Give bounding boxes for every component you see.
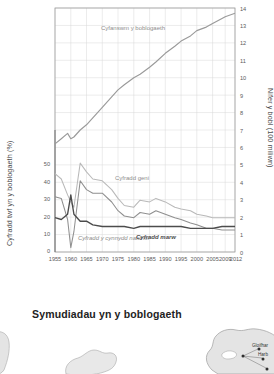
left-axis-ticks: 50 40 30 20 10 0 -10 bbox=[44, 161, 50, 254]
svg-text:14: 14 bbox=[240, 6, 246, 12]
svg-text:13: 13 bbox=[240, 23, 246, 29]
right-axis-title: Nifer y bobl (100 miliwn) bbox=[266, 88, 274, 168]
population-chart-figure: Cyfradd twf yn y boblogaeth (%) Nifer y … bbox=[0, 0, 274, 278]
svg-text:10: 10 bbox=[240, 75, 246, 81]
svg-text:1980: 1980 bbox=[128, 256, 140, 262]
series-label-total-population: Cyfanswm y boblogaeth bbox=[101, 25, 165, 31]
map-shape-left bbox=[0, 331, 9, 374]
svg-text:11: 11 bbox=[240, 58, 246, 64]
svg-text:20: 20 bbox=[44, 214, 50, 220]
svg-text:2012: 2012 bbox=[230, 256, 242, 262]
svg-text:5: 5 bbox=[240, 162, 243, 168]
svg-text:2: 2 bbox=[240, 215, 243, 221]
series-label-death-rate: Cyfradd marw bbox=[136, 234, 176, 240]
svg-text:2000: 2000 bbox=[191, 256, 203, 262]
series-label-birth-rate: Cyfradd geni bbox=[115, 175, 149, 181]
svg-text:9: 9 bbox=[240, 93, 243, 99]
svg-text:1955: 1955 bbox=[49, 256, 61, 262]
x-axis-ticks: 1955 1960 1965 1970 1975 1980 1985 1990 … bbox=[49, 256, 242, 262]
svg-text:1990: 1990 bbox=[159, 256, 171, 262]
svg-text:0: 0 bbox=[47, 248, 50, 254]
map-strip-svg: Gloifhar Harb bbox=[0, 326, 274, 374]
map-city-label-2: Harb bbox=[258, 352, 268, 357]
svg-text:30: 30 bbox=[44, 196, 50, 202]
svg-text:1975: 1975 bbox=[112, 256, 124, 262]
svg-text:1: 1 bbox=[240, 232, 243, 238]
svg-text:10: 10 bbox=[44, 231, 50, 237]
page-section-heading: Symudiadau yn y boblogaeth bbox=[32, 308, 252, 320]
population-chart-svg: Cyfradd twf yn y boblogaeth (%) Nifer y … bbox=[0, 0, 274, 278]
svg-text:1995: 1995 bbox=[175, 256, 187, 262]
svg-text:1960: 1960 bbox=[65, 256, 77, 262]
svg-text:2005: 2005 bbox=[206, 256, 218, 262]
svg-text:0: 0 bbox=[240, 250, 243, 256]
svg-text:12: 12 bbox=[240, 40, 246, 46]
svg-text:1985: 1985 bbox=[143, 256, 155, 262]
svg-text:1965: 1965 bbox=[80, 256, 92, 262]
svg-text:6: 6 bbox=[240, 145, 243, 151]
map-illustration-strip: Gloifhar Harb bbox=[0, 326, 274, 374]
right-axis-ticks: 14 13 12 11 10 9 8 7 6 5 4 3 2 1 0 bbox=[240, 6, 246, 256]
svg-text:1970: 1970 bbox=[96, 256, 108, 262]
svg-text:50: 50 bbox=[44, 161, 50, 167]
svg-text:7: 7 bbox=[240, 128, 243, 134]
svg-text:4: 4 bbox=[240, 180, 243, 186]
svg-text:40: 40 bbox=[44, 179, 50, 185]
left-axis-title: Cyfradd twf yn y boblogaeth (%) bbox=[5, 141, 14, 246]
svg-text:3: 3 bbox=[240, 197, 243, 203]
svg-text:8: 8 bbox=[240, 110, 243, 116]
map-shape-centre bbox=[66, 350, 117, 374]
map-city-label-1: Gloifhar bbox=[252, 343, 269, 348]
